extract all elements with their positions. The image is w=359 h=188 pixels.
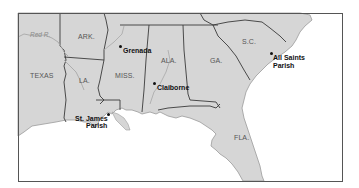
map: Red R. TEXAS ARK. LA. MISS. ALA. GA. S.C… — [0, 0, 359, 188]
state-label-florida: FLA. — [234, 134, 249, 141]
state-label-georgia: GA. — [210, 57, 222, 64]
place-label-all-saints-parish: All Saints — [273, 54, 305, 62]
place-marker-grenada — [119, 45, 122, 48]
map-canvas — [0, 0, 359, 188]
river-label-red: Red R. — [30, 31, 50, 38]
place-label-claiborne: Claiborne — [157, 84, 189, 92]
place-label-grenada: Grenada — [123, 47, 151, 55]
state-label-arkansas: ARK. — [78, 33, 95, 40]
state-label-mississippi: MISS. — [115, 72, 135, 79]
state-label-louisiana: LA. — [79, 77, 90, 84]
state-label-alabama: ALA. — [161, 57, 177, 64]
place-label-all-saints-parish-line2: Parish — [273, 62, 294, 70]
place-label-st-james-parish-line2: Parish — [86, 122, 107, 130]
land-mass — [18, 13, 312, 181]
state-label-texas: TEXAS — [30, 72, 53, 79]
state-label-south-carolina: S.C. — [242, 38, 256, 45]
place-marker-claiborne — [153, 82, 156, 85]
